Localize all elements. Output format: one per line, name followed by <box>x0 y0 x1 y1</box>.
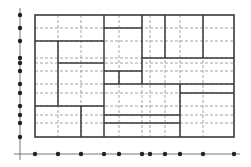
y-axis <box>18 8 22 160</box>
partition-diagram <box>0 0 251 167</box>
x-axis-dot <box>201 152 205 156</box>
x-axis-dot <box>117 152 121 156</box>
x-axis-dot <box>148 152 152 156</box>
y-axis-dot <box>18 69 22 73</box>
outer-rectangle <box>35 15 234 137</box>
y-axis-dot <box>18 82 22 86</box>
y-axis-dot <box>18 13 22 17</box>
x-axis-dot <box>232 152 236 156</box>
y-axis-dot <box>18 61 22 65</box>
dashed-gridlines <box>35 15 234 137</box>
x-axis-dot <box>102 152 106 156</box>
y-axis-dot <box>18 113 22 117</box>
x-axis-dot <box>140 152 144 156</box>
y-axis-dot <box>18 56 22 60</box>
x-axis-dot <box>163 152 167 156</box>
x-axis-dot <box>79 152 83 156</box>
y-axis-dot <box>18 26 22 30</box>
x-axis <box>14 152 240 156</box>
partition-lines <box>35 15 234 137</box>
y-axis-dot <box>18 39 22 43</box>
x-axis-dot <box>178 152 182 156</box>
y-axis-dot <box>18 135 22 139</box>
y-axis-dot <box>18 91 22 95</box>
y-axis-dot <box>18 121 22 125</box>
y-axis-dot <box>18 104 22 108</box>
x-axis-dot <box>33 152 37 156</box>
x-axis-dot <box>56 152 60 156</box>
